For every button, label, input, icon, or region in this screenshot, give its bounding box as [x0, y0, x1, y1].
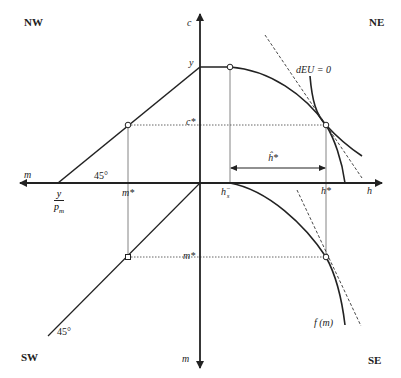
label-y-intercept: y	[189, 58, 193, 68]
axis-label-h: h	[367, 186, 372, 196]
label-f-m: f (m)	[314, 318, 333, 328]
sw-m-star-point	[126, 255, 131, 260]
label-m-star-axis: m*	[122, 188, 134, 198]
se-m-star-point	[323, 254, 329, 260]
axis-label-m-left: m	[24, 170, 31, 180]
quadrant-label-se: SE	[368, 355, 381, 366]
label-c-star: c*	[186, 117, 195, 127]
label-deu-zero: dEU = 0	[296, 65, 331, 75]
label-h-hat-star: ĥ*	[268, 153, 278, 163]
deu-indifference-curve	[310, 76, 362, 156]
axis-label-m-down: m	[182, 354, 189, 364]
ne-tangent-dashed-line	[265, 35, 362, 178]
label-y-over-pm: y pm	[54, 189, 64, 215]
ne-tangency-point	[323, 122, 329, 128]
label-m-star-se: m*	[183, 251, 195, 261]
sw-45-degree-line	[48, 183, 200, 336]
frac-numerator: y	[54, 189, 64, 201]
axis-label-c: c	[187, 18, 191, 28]
quadrant-label-nw: NW	[24, 17, 43, 28]
points	[125, 64, 329, 260]
nw-c-star-point	[125, 122, 131, 128]
label-angle-sw: 45°	[57, 327, 71, 337]
f-m-curve	[230, 183, 345, 325]
quadrant-label-sw: SW	[21, 352, 38, 363]
label-angle-nw: 45°	[94, 171, 108, 181]
quadrant-label-ne: NE	[369, 17, 384, 28]
plateau-end-point	[227, 64, 233, 70]
frac-den-sub: m	[59, 207, 64, 215]
guide-lines	[128, 67, 326, 257]
label-h-s-minus: h−s	[221, 186, 229, 200]
frac-denominator: pm	[54, 201, 64, 215]
label-h-star-axis: h*	[321, 186, 331, 196]
h-s-minus-sub: s	[227, 192, 230, 200]
